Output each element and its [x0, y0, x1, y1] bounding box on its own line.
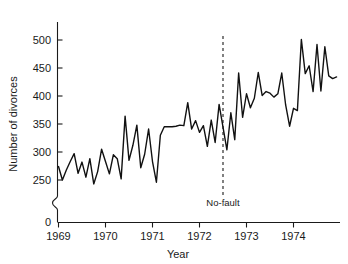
- y-tick-label-350: 350: [33, 118, 51, 130]
- x-tick-label-1974: 1974: [281, 230, 305, 242]
- x-tick-label-1969: 1969: [46, 230, 70, 242]
- x-tick-label-1970: 1970: [93, 230, 117, 242]
- divorces-series-line: [59, 39, 337, 183]
- y-axis-ticks: [58, 40, 63, 180]
- x-tick-label-1971: 1971: [140, 230, 164, 242]
- y-tick-label-450: 450: [33, 62, 51, 74]
- y-tick-label-300: 300: [33, 146, 51, 158]
- no-fault-annotation-label: No-fault: [206, 197, 240, 208]
- y-tick-label-250: 250: [33, 174, 51, 186]
- chart-canvas: 500 450 400 350 300 250 0 1969 1970 1971…: [0, 0, 348, 264]
- y-axis-break-icon: [53, 192, 58, 222]
- y-tick-label-500: 500: [33, 34, 51, 46]
- x-axis-ticks: [59, 223, 294, 228]
- y-axis-title: Number of divorces: [7, 76, 19, 172]
- x-axis-title: Year: [167, 248, 190, 260]
- x-tick-label-1973: 1973: [234, 230, 258, 242]
- y-tick-label-0: 0: [45, 216, 51, 228]
- divorces-time-series-figure: 500 450 400 350 300 250 0 1969 1970 1971…: [0, 0, 348, 264]
- y-tick-label-400: 400: [33, 90, 51, 102]
- x-tick-label-1972: 1972: [187, 230, 211, 242]
